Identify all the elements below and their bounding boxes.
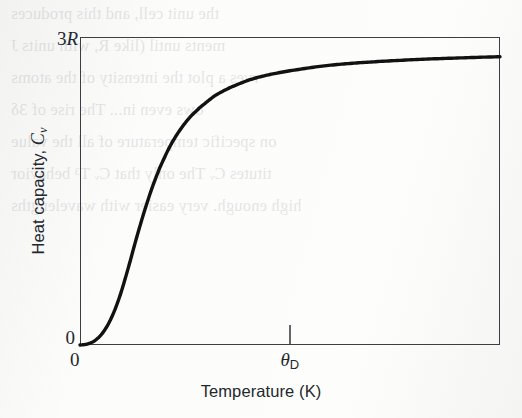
figure-canvas: the unit cell, and this produces ments u… [0,0,522,418]
debye-curve [80,57,500,345]
x-axis-tick-label-theta-d: θD [281,349,300,372]
y-axis-title: Heat capacity, Cv [28,37,52,345]
plot-drawing-area [80,37,500,345]
x-axis-tick-label-zero: 0 [70,349,80,371]
x-axis-title: Temperature (K) [0,382,522,401]
y-axis-tick-label-zero: 0 [66,327,76,349]
y-axis-tick-label-3R: 3R [57,28,78,50]
